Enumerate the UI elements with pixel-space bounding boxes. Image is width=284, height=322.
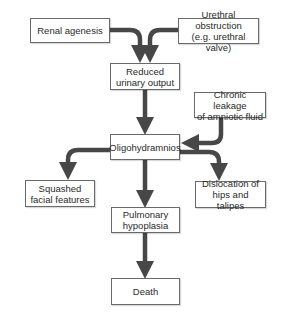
arrow-chronic-to-oligo <box>190 118 221 143</box>
arrow-urethral-to-reduced <box>150 30 178 54</box>
node-pulmonary-hypoplasia: Pulmonary hypoplasia <box>111 207 180 233</box>
node-reduced-urinary-output: Reduced urinary output <box>110 63 180 90</box>
node-chronic-leakage: Chronic leakage of amniotic fluid <box>194 92 266 118</box>
arrow-oligo-to-dislocation <box>180 152 219 172</box>
node-oligohydramnios: Oligohydramnios <box>110 134 180 160</box>
arrow-oligo-to-squashed <box>68 150 110 171</box>
node-renal-agenesis: Renal agenesis <box>30 18 110 43</box>
node-dislocation-hips: Dislocation of hips and talipes <box>195 181 266 208</box>
arrow-renal-to-reduced <box>110 30 140 54</box>
node-urethral-obstruction: Urethral obstruction (e.g. urethral valv… <box>178 18 259 44</box>
node-death: Death <box>111 278 180 305</box>
node-squashed-facial-features: Squashed facial features <box>25 180 95 207</box>
